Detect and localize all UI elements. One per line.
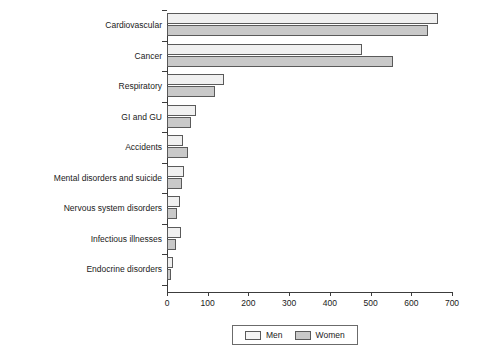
bar-men [167, 44, 362, 55]
x-axis-tick [330, 292, 331, 296]
legend-label-women: Women [316, 330, 345, 340]
x-axis-tick-label: 400 [323, 298, 337, 308]
y-axis-tick [162, 102, 167, 103]
category-label: Nervous system disorders [0, 203, 162, 213]
x-axis-tick [208, 292, 209, 296]
x-axis-tick [371, 292, 372, 296]
bar-men [167, 13, 438, 24]
category-label: Mental disorders and suicide [0, 173, 162, 183]
bar-women [167, 178, 182, 189]
x-axis-tick [248, 292, 249, 296]
men-swatch-icon [245, 331, 261, 340]
y-axis-tick [162, 224, 167, 225]
y-axis-tick [162, 193, 167, 194]
y-axis-tick [162, 10, 167, 11]
y-axis-tick [162, 71, 167, 72]
bar-women [167, 56, 393, 67]
x-axis-tick-label: 500 [363, 298, 377, 308]
women-swatch-icon [295, 331, 311, 340]
bar-women [167, 208, 177, 219]
x-axis-tick [452, 292, 453, 296]
y-axis-tick [162, 132, 167, 133]
bar-men [167, 135, 183, 146]
bar-men [167, 105, 196, 116]
bar-women [167, 147, 188, 158]
category-label: Cardiovascular [0, 20, 162, 30]
legend-entry-women: Women [295, 330, 345, 340]
y-axis-tick [162, 41, 167, 42]
category-label: Infectious illnesses [0, 234, 162, 244]
bar-men [167, 227, 181, 238]
x-axis-tick [411, 292, 412, 296]
x-axis-tick [167, 292, 168, 296]
bar-chart: CardiovascularCancerRespiratoryGI and GU… [0, 0, 489, 356]
chart-legend: Men Women [232, 325, 358, 345]
x-axis-tick-label: 0 [165, 298, 170, 308]
bar-women [167, 239, 176, 250]
category-label: GI and GU [0, 112, 162, 122]
bar-men [167, 166, 184, 177]
x-axis-tick-label: 300 [282, 298, 296, 308]
y-axis-tick [162, 163, 167, 164]
y-axis-tick [162, 285, 167, 286]
category-label: Accidents [0, 142, 162, 152]
x-axis-tick-label: 100 [201, 298, 215, 308]
bar-women [167, 86, 215, 97]
bar-men [167, 257, 173, 268]
x-axis-spine [167, 292, 452, 293]
bar-women [167, 25, 428, 36]
x-axis-tick [289, 292, 290, 296]
x-axis-tick-label: 700 [445, 298, 459, 308]
category-label: Respiratory [0, 81, 162, 91]
legend-entry-men: Men [245, 330, 283, 340]
x-axis-tick-label: 200 [241, 298, 255, 308]
y-axis-tick [162, 254, 167, 255]
x-axis-tick-label: 600 [404, 298, 418, 308]
category-label: Cancer [0, 51, 162, 61]
bar-women [167, 269, 171, 280]
category-label: Endocrine disorders [0, 264, 162, 274]
legend-label-men: Men [266, 330, 283, 340]
bar-women [167, 117, 191, 128]
bar-men [167, 196, 180, 207]
bar-men [167, 74, 224, 85]
